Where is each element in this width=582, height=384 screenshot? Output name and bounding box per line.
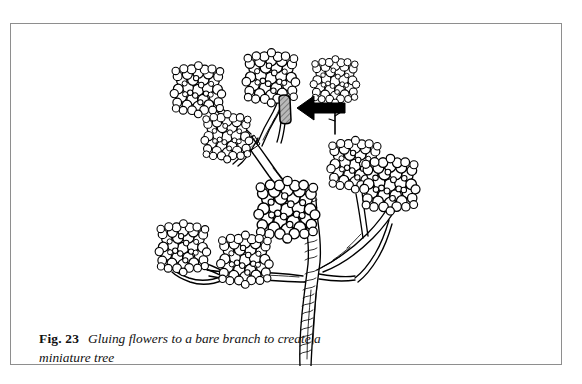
flower-upper-mid — [201, 111, 253, 163]
arrow-pointing-to-glue-blob — [297, 96, 345, 120]
flower-right-upper — [327, 136, 383, 193]
figure-frame: Fig. 23Gluing flowers to a bare branch t… — [10, 23, 562, 365]
detached-flower-stem — [329, 104, 341, 134]
flower-top-right-detached — [310, 56, 360, 106]
glue-blob — [279, 95, 291, 124]
branch-structure — [171, 94, 399, 366]
figure-caption-text: Gluing flowers to a bare branch to creat… — [39, 331, 321, 365]
flower-right-lower — [360, 154, 420, 215]
figure-page: Fig. 23Gluing flowers to a bare branch t… — [0, 0, 582, 384]
flower-upper-left — [170, 62, 226, 118]
figure-label: Fig. 23 — [39, 331, 79, 346]
flower-lower-left — [155, 220, 211, 276]
flower-center — [254, 176, 320, 243]
figure-caption: Fig. 23Gluing flowers to a bare branch t… — [39, 329, 339, 367]
miniature-tree-illustration — [11, 24, 563, 366]
flower-lower-mid — [217, 231, 274, 288]
flower-heads-group — [155, 49, 420, 289]
flower-top-center — [242, 49, 300, 107]
